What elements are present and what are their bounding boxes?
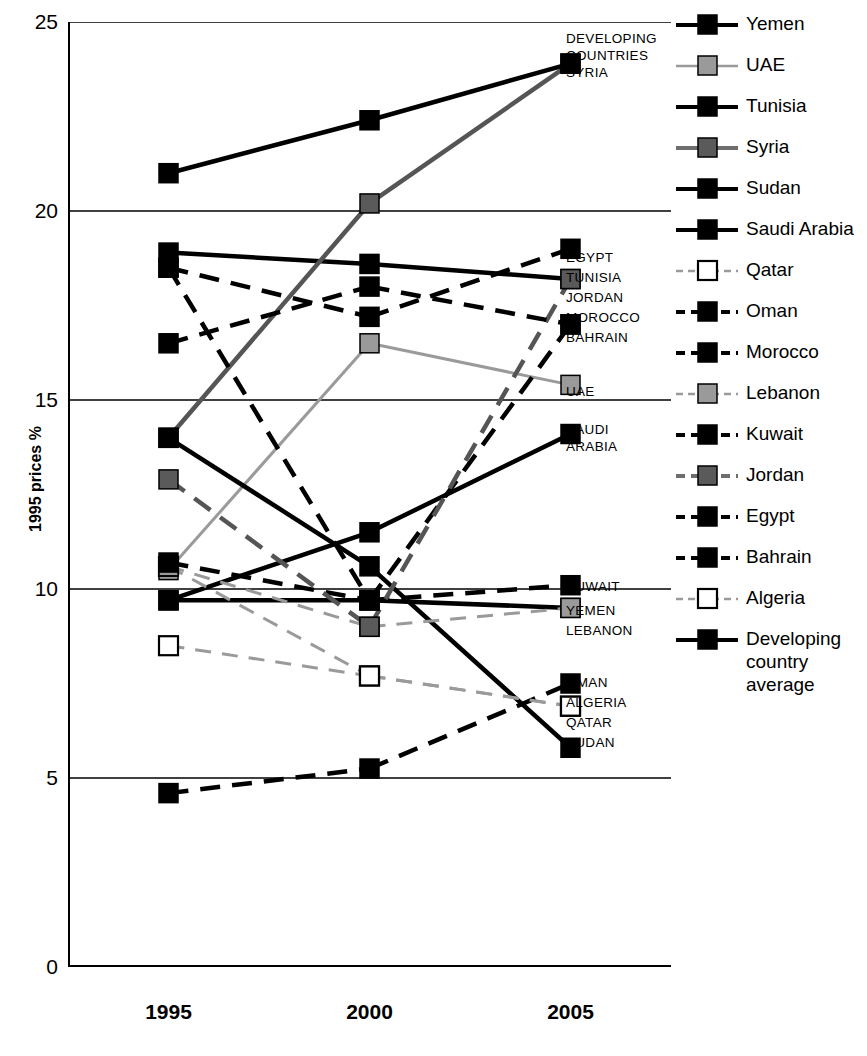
ann-uae: UAE (566, 383, 595, 400)
legend-item-kuwait[interactable]: Kuwait (676, 422, 867, 463)
legend-key-swatch (676, 341, 738, 365)
legend-key-swatch (676, 300, 738, 324)
data-point-marker (360, 277, 379, 296)
legend-item-syria[interactable]: Syria (676, 135, 867, 176)
legend-key-icon (676, 505, 738, 529)
legend-item-label: Kuwait (738, 422, 803, 446)
legend-key-swatch (676, 177, 738, 201)
series-line (169, 532, 370, 600)
x-tick-label: 1995 (109, 1000, 229, 1024)
legend-item-morocco[interactable]: Morocco (676, 340, 867, 381)
legend-key-swatch (676, 587, 738, 611)
legend-item-saudi-arabia[interactable]: Saudi Arabia (676, 217, 867, 258)
legend-key-icon (676, 95, 738, 119)
legend-key-icon (676, 300, 738, 324)
ann-yemen: YEMEN (566, 602, 616, 619)
y-tick-label: 10 (14, 578, 58, 599)
legend-item-label: Lebanon (738, 381, 820, 405)
legend-item-qatar[interactable]: Qatar (676, 258, 867, 299)
legend-item-label: Oman (738, 299, 798, 323)
data-point-marker (360, 759, 379, 778)
legend-item-label: Egypt (738, 504, 795, 528)
legend-item-bahrain[interactable]: Bahrain (676, 545, 867, 586)
legend-key-swatch (676, 423, 738, 447)
legend-key-icon (676, 587, 738, 611)
legend-key-icon (676, 423, 738, 447)
legend-key-icon (676, 218, 738, 242)
chart-legend: YemenUAETunisiaSyriaSudanSaudi ArabiaQat… (676, 12, 867, 668)
ann-egypt: EGYPT (566, 249, 613, 266)
legend-key-swatch (676, 136, 738, 160)
legend-key-icon (676, 136, 738, 160)
y-tick-label: 0 (14, 956, 58, 977)
plot-area (68, 22, 671, 967)
legend-key-icon (676, 546, 738, 570)
data-point-marker (159, 553, 178, 572)
data-point-marker (360, 254, 379, 273)
legend-item-algeria[interactable]: Algeria (676, 586, 867, 627)
ann-tunisia: TUNISIA (566, 269, 621, 286)
ann-algeria: ALGERIA (566, 694, 627, 711)
data-point-marker (360, 666, 379, 685)
ann-sudan: SUDAN (566, 734, 615, 751)
ann-bahrain: BAHRAIN (566, 329, 628, 346)
legend-key-swatch (676, 259, 738, 283)
legend-key-icon (676, 464, 738, 488)
data-point-marker (159, 784, 178, 803)
legend-item-label: Jordan (738, 463, 804, 487)
legend-item-lebanon[interactable]: Lebanon (676, 381, 867, 422)
series-line (370, 279, 571, 627)
legend-item-label: UAE (738, 53, 785, 77)
legend-item-oman[interactable]: Oman (676, 299, 867, 340)
series-line (370, 264, 571, 279)
data-point-marker (159, 164, 178, 183)
ann-oman: OMAN (566, 674, 608, 691)
data-point-marker (159, 591, 178, 610)
series-line (169, 120, 370, 173)
series-line (370, 324, 571, 600)
data-point-marker (360, 111, 379, 130)
legend-item-yemen[interactable]: Yemen (676, 12, 867, 53)
series-line (370, 64, 571, 204)
legend-key-swatch (676, 464, 738, 488)
series-line (370, 676, 571, 706)
legend-item-uae[interactable]: UAE (676, 53, 867, 94)
legend-item-label: Bahrain (738, 545, 812, 569)
series-line (169, 203, 370, 437)
legend-key-icon (676, 341, 738, 365)
x-axis: 199520002005 (68, 1000, 671, 1034)
series-line (370, 684, 571, 769)
data-point-marker (159, 258, 178, 277)
legend-key-icon (676, 628, 738, 652)
data-point-marker (159, 636, 178, 655)
legend-item-developing[interactable]: Developing country average (676, 627, 867, 668)
series-line (370, 64, 571, 121)
legend-item-egypt[interactable]: Egypt (676, 504, 867, 545)
ann-developing-syria: DEVELOPING COUNTRIES SYRIA (566, 30, 657, 81)
y-axis-title: 1995 prices % (27, 379, 45, 579)
legend-item-jordan[interactable]: Jordan (676, 463, 867, 504)
legend-item-label: Syria (738, 135, 789, 159)
ann-saudi-arabia: SAUDI ARABIA (566, 421, 617, 455)
y-tick-label: 5 (14, 767, 58, 788)
data-point-marker (360, 334, 379, 353)
chart-canvas (68, 22, 671, 967)
x-tick-label: 2000 (310, 1000, 430, 1024)
data-point-marker (360, 617, 379, 636)
x-tick-label: 2005 (511, 1000, 631, 1024)
legend-item-label: Sudan (738, 176, 801, 200)
legend-key-icon (676, 259, 738, 283)
legend-key-icon (676, 177, 738, 201)
ann-jordan: JORDAN (566, 289, 623, 306)
series-line (370, 600, 571, 608)
ann-lebanon: LEBANON (566, 622, 633, 639)
data-point-marker (360, 591, 379, 610)
legend-item-tunisia[interactable]: Tunisia (676, 94, 867, 135)
legend-item-label: Saudi Arabia (738, 217, 854, 241)
legend-key-swatch (676, 546, 738, 570)
legend-key-swatch (676, 95, 738, 119)
legend-item-sudan[interactable]: Sudan (676, 176, 867, 217)
data-point-marker (159, 334, 178, 353)
legend-item-label: Tunisia (738, 94, 807, 118)
chart-page: 2520151050 1995 prices % 199520002005 Ye… (0, 0, 867, 1056)
